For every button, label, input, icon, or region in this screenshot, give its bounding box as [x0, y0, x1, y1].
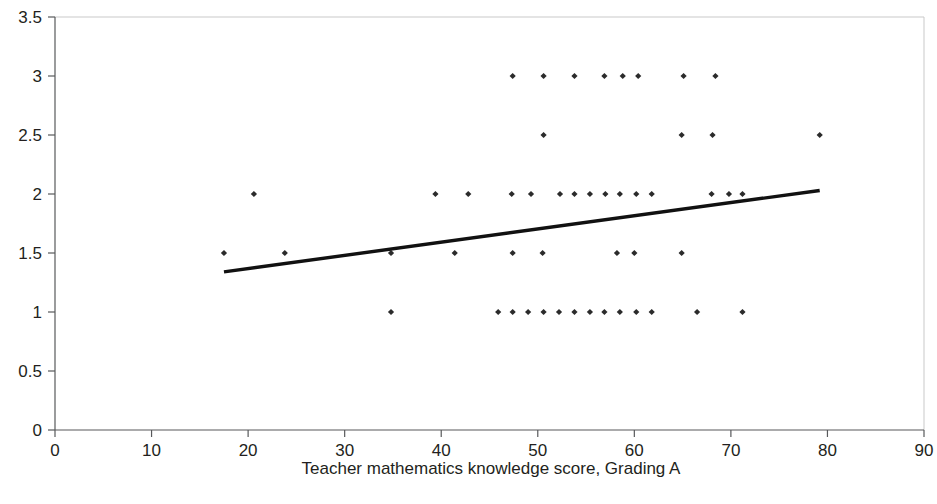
data-point-marker: [712, 73, 718, 79]
data-point-marker: [495, 309, 501, 315]
data-point-marker: [635, 73, 641, 79]
data-point-marker: [708, 191, 714, 197]
y-axis-tick-labels: 00.511.522.533.5: [18, 8, 42, 440]
y-tick-label: 0: [33, 421, 42, 440]
data-point-marker: [540, 132, 546, 138]
y-tick-label: 3.5: [18, 8, 42, 27]
data-point-marker: [571, 73, 577, 79]
data-point-marker: [739, 191, 745, 197]
x-tick-label: 90: [915, 441, 934, 460]
x-tick-label: 80: [818, 441, 837, 460]
data-point-marker: [601, 309, 607, 315]
x-tick-label: 20: [239, 441, 258, 460]
data-point-marker: [432, 191, 438, 197]
x-tick-label: 60: [625, 441, 644, 460]
data-point-marker: [726, 191, 732, 197]
axis-ticks: [48, 17, 924, 437]
data-points: [221, 73, 823, 315]
y-tick-label: 1: [33, 303, 42, 322]
data-point-marker: [679, 132, 685, 138]
data-point-marker: [465, 191, 471, 197]
data-point-marker: [817, 132, 823, 138]
data-point-marker: [587, 309, 593, 315]
data-point-marker: [540, 73, 546, 79]
y-tick-label: 3: [33, 67, 42, 86]
trend-line: [224, 190, 820, 271]
data-point-marker: [525, 309, 531, 315]
data-point-marker: [528, 191, 534, 197]
data-point-marker: [509, 191, 515, 197]
y-tick-label: 2.5: [18, 126, 42, 145]
data-point-marker: [694, 309, 700, 315]
data-point-marker: [251, 191, 257, 197]
x-axis-title: Teacher mathematics knowledge score, Gra…: [302, 459, 682, 478]
data-point-marker: [452, 250, 458, 256]
y-tick-label: 0.5: [18, 362, 42, 381]
data-point-marker: [571, 191, 577, 197]
data-point-marker: [680, 73, 686, 79]
x-tick-label: 0: [50, 441, 59, 460]
data-point-marker: [649, 191, 655, 197]
y-tick-label: 1.5: [18, 244, 42, 263]
x-tick-label: 10: [142, 441, 161, 460]
data-point-marker: [510, 73, 516, 79]
data-point-marker: [282, 250, 288, 256]
x-tick-label: 50: [528, 441, 547, 460]
data-point-marker: [540, 250, 546, 256]
data-point-marker: [601, 73, 607, 79]
x-tick-label: 40: [432, 441, 451, 460]
data-point-marker: [617, 191, 623, 197]
data-point-marker: [557, 191, 563, 197]
data-point-marker: [709, 132, 715, 138]
data-point-marker: [631, 250, 637, 256]
data-point-marker: [388, 309, 394, 315]
data-point-marker: [587, 191, 593, 197]
x-axis-tick-labels: 0102030405060708090: [50, 441, 933, 460]
chart-figure: 00.511.522.533.5 0102030405060708090 Tea…: [0, 0, 937, 504]
scatter-plot-svg: 00.511.522.533.5 0102030405060708090 Tea…: [0, 0, 937, 504]
data-point-marker: [602, 191, 608, 197]
data-point-marker: [540, 309, 546, 315]
data-point-marker: [571, 309, 577, 315]
data-point-marker: [649, 309, 655, 315]
linear-trend-line: [224, 190, 820, 271]
data-point-marker: [556, 309, 562, 315]
x-tick-label: 70: [721, 441, 740, 460]
data-point-marker: [510, 309, 516, 315]
data-point-marker: [633, 309, 639, 315]
x-tick-label: 30: [335, 441, 354, 460]
data-point-marker: [510, 250, 516, 256]
data-point-marker: [739, 309, 745, 315]
data-point-marker: [633, 191, 639, 197]
data-point-marker: [614, 250, 620, 256]
data-point-marker: [679, 250, 685, 256]
plot-frame: [55, 17, 924, 430]
data-point-marker: [620, 73, 626, 79]
data-point-marker: [221, 250, 227, 256]
data-point-marker: [617, 309, 623, 315]
y-tick-label: 2: [33, 185, 42, 204]
